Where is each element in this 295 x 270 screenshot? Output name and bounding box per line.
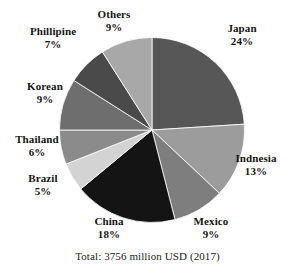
pie-svg (59, 37, 245, 223)
pie-label-korean-percent: 9% (16, 93, 74, 106)
pie-label-phillipine-name: Phillipine (20, 25, 86, 38)
pie-label-thailand-percent: 6% (6, 146, 68, 159)
pie-slice-group (60, 38, 245, 223)
pie-label-korean-name: Korean (16, 80, 74, 93)
pie-label-others-name: Others (86, 8, 142, 21)
pie-label-china: China 18% (84, 215, 134, 241)
pie-slice-japan (152, 38, 244, 131)
pie-label-mexico-name: Mexico (184, 215, 238, 228)
pie-label-others-percent: 9% (86, 21, 142, 34)
pie-chart-figure: Others 9% Japan 24% Phillipine 7% Indnes… (0, 0, 295, 270)
pie-label-japan-percent: 24% (214, 35, 270, 48)
pie-label-others: Others 9% (86, 8, 142, 34)
pie-label-thailand-name: Thailand (6, 133, 68, 146)
pie-label-phillipine-percent: 7% (20, 38, 86, 51)
pie-label-brazil-name: Brazil (16, 172, 70, 185)
pie-label-china-name: China (84, 215, 134, 228)
pie-label-china-percent: 18% (84, 228, 134, 241)
pie-chart-graphic (59, 37, 245, 223)
pie-label-indnesia: Indnesia 13% (224, 152, 288, 178)
pie-label-phillipine: Phillipine 7% (20, 25, 86, 51)
pie-label-japan: Japan 24% (214, 22, 270, 48)
pie-label-brazil: Brazil 5% (16, 172, 70, 198)
pie-label-brazil-percent: 5% (16, 185, 70, 198)
pie-label-mexico-percent: 9% (184, 228, 238, 241)
pie-label-korean: Korean 9% (16, 80, 74, 106)
pie-label-thailand: Thailand 6% (6, 133, 68, 159)
pie-label-japan-name: Japan (214, 22, 270, 35)
pie-label-indnesia-percent: 13% (224, 165, 288, 178)
chart-total-caption: Total: 3756 million USD (2017) (0, 250, 295, 262)
pie-label-mexico: Mexico 9% (184, 215, 238, 241)
pie-label-indnesia-name: Indnesia (224, 152, 288, 165)
